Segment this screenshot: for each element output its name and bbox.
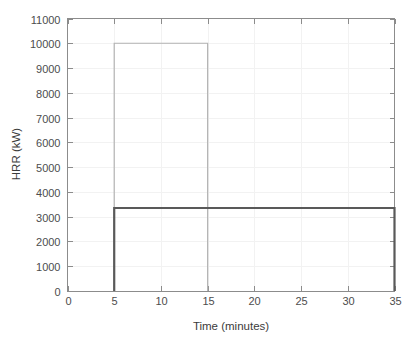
x-tick-label: 20 <box>248 295 260 307</box>
x-tick-label: 35 <box>389 295 401 307</box>
x-tick-label: 25 <box>295 295 307 307</box>
y-tick-label: 1000 <box>36 261 60 273</box>
x-tick-label: 30 <box>342 295 354 307</box>
x-tick-label: 0 <box>65 295 71 307</box>
x-tick-label: 15 <box>202 295 214 307</box>
y-tick-label: 0 <box>54 286 60 298</box>
y-tick-label: 10000 <box>30 38 61 50</box>
plot-area-background <box>68 19 395 292</box>
x-axis-tick-labels: 05101520253035 <box>65 295 401 307</box>
y-tick-label: 7000 <box>36 113 60 125</box>
chart-figure: 05101520253035 0100020003000400050006000… <box>0 0 420 344</box>
x-axis-title: Time (minutes) <box>193 320 269 332</box>
y-axis-title: HRR (kW) <box>10 128 22 181</box>
y-tick-label: 3000 <box>36 212 60 224</box>
y-tick-label: 4000 <box>36 187 60 199</box>
y-tick-label: 8000 <box>36 88 60 100</box>
x-tick-label: 5 <box>111 295 117 307</box>
hrr-vs-time-line-chart: 05101520253035 0100020003000400050006000… <box>0 0 420 344</box>
y-axis-tick-labels: 0100020003000400050006000700080009000100… <box>30 14 61 298</box>
y-tick-label: 5000 <box>36 162 60 174</box>
x-tick-label: 10 <box>155 295 167 307</box>
y-tick-label: 2000 <box>36 236 60 248</box>
y-tick-label: 9000 <box>36 63 60 75</box>
y-tick-label: 6000 <box>36 137 60 149</box>
y-tick-label: 11000 <box>31 14 61 26</box>
